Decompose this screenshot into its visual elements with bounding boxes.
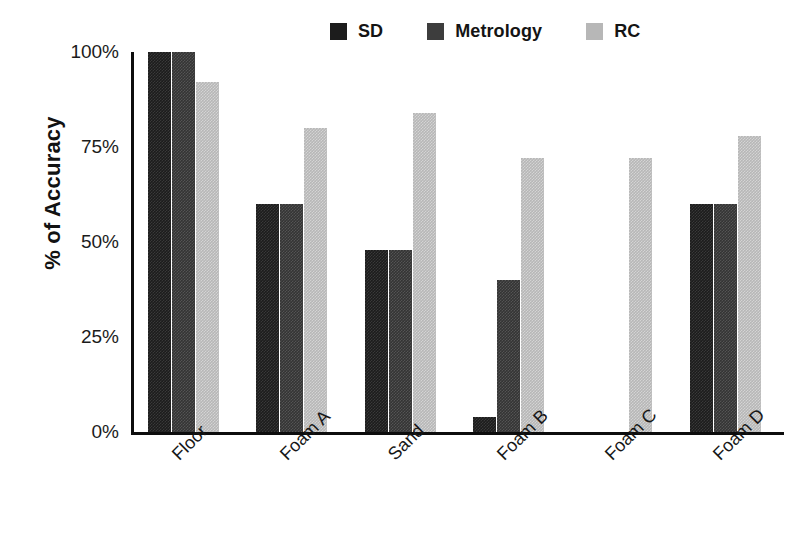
y-tick-label: 75% [39, 136, 119, 158]
legend-swatch-metrology-icon [427, 23, 444, 40]
legend-item-metrology[interactable]: Metrology [427, 21, 542, 42]
bar-rc-foam-c[interactable] [629, 158, 652, 432]
y-tick-label: 50% [39, 231, 119, 253]
bar-sd-sand[interactable] [365, 250, 388, 432]
bar-metrology-foam-d[interactable] [714, 204, 737, 432]
y-tick-label: 0% [39, 421, 119, 443]
bar-rc-floor[interactable] [196, 82, 219, 432]
y-tick-label: 100% [39, 41, 119, 63]
bar-metrology-foam-a[interactable] [280, 204, 303, 432]
bar-group-foam-b [459, 52, 567, 432]
bar-group-foam-d [676, 52, 784, 432]
bar-rc-foam-b[interactable] [521, 158, 544, 432]
bar-groups [134, 52, 784, 432]
bar-rc-foam-a[interactable] [304, 128, 327, 432]
bar-group-floor [134, 52, 242, 432]
bar-sd-foam-d[interactable] [690, 204, 713, 432]
y-tick-label: 25% [39, 326, 119, 348]
legend-label-metrology: Metrology [455, 21, 542, 42]
legend-item-rc[interactable]: RC [586, 21, 640, 42]
bar-group-foam-a [242, 52, 350, 432]
x-axis-line [131, 432, 784, 435]
bar-sd-foam-a[interactable] [256, 204, 279, 432]
bar-metrology-floor[interactable] [172, 52, 195, 432]
bar-rc-foam-d[interactable] [738, 136, 761, 432]
legend-label-rc: RC [614, 21, 640, 42]
bar-group-foam-c [567, 52, 675, 432]
bar-metrology-sand[interactable] [389, 250, 412, 432]
legend-swatch-sd-icon [330, 23, 347, 40]
chart-legend: SD Metrology RC [330, 18, 640, 44]
bar-group-sand [351, 52, 459, 432]
plot-area: 0%25%50%75%100% FloorFoam ASandFoam BFoa… [131, 52, 784, 432]
bar-rc-sand[interactable] [413, 113, 436, 432]
bar-sd-foam-b[interactable] [473, 417, 496, 432]
bar-sd-floor[interactable] [148, 52, 171, 432]
legend-item-sd[interactable]: SD [330, 21, 383, 42]
legend-swatch-rc-icon [586, 23, 603, 40]
chart-figure: SD Metrology RC % of Accuracy 0%25%50%75… [0, 0, 812, 538]
bar-metrology-foam-b[interactable] [497, 280, 520, 432]
y-axis-title: % of Accuracy [40, 78, 66, 308]
legend-label-sd: SD [358, 21, 383, 42]
